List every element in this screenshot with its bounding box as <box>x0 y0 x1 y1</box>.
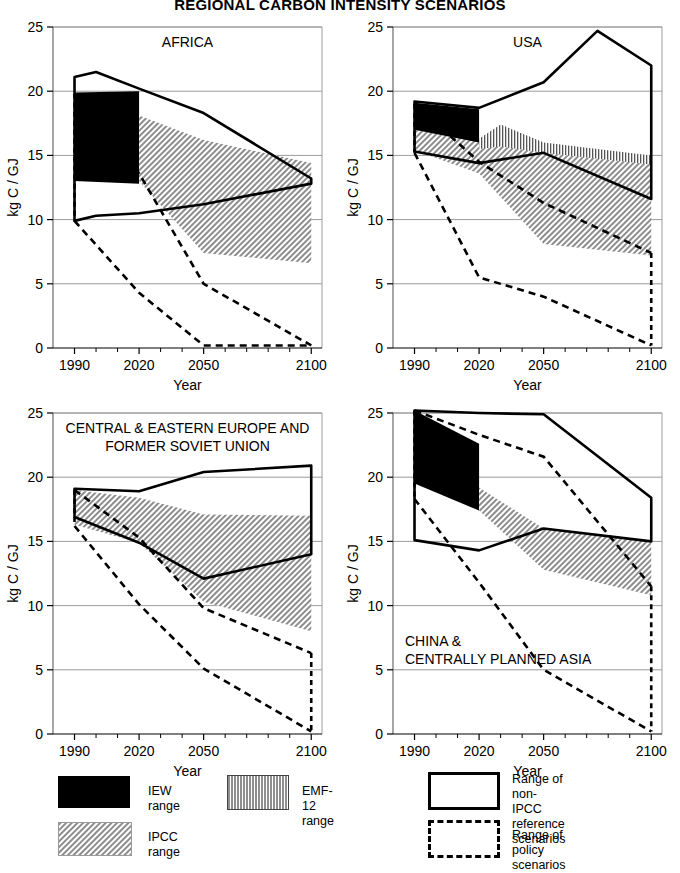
y-tick-label: 5 <box>35 276 43 292</box>
x-tick-label: 2050 <box>188 743 219 759</box>
y-tick-label: 15 <box>367 533 383 549</box>
panel-title: USA <box>513 34 542 50</box>
y-tick-label: 25 <box>27 405 43 421</box>
band-ipcc-range <box>75 490 312 631</box>
x-tick-label: 2020 <box>464 743 495 759</box>
y-tick-label: 0 <box>35 340 43 356</box>
y-tick-label: 15 <box>27 533 43 549</box>
legend-label-iew: IEW range <box>148 784 180 814</box>
y-axis-label: kg C / GJ <box>345 158 361 216</box>
chart-panel-africa: 05101520251990202020502100Yearkg C / GJA… <box>0 14 340 400</box>
y-tick-label: 10 <box>367 598 383 614</box>
legend-label-ipcc: IPCC range <box>148 830 180 860</box>
y-tick-label: 5 <box>35 662 43 678</box>
y-axis-label: kg C / GJ <box>5 158 21 216</box>
x-tick-label: 2020 <box>124 743 155 759</box>
chart-panel-china-cpa: 05101520251990202020502100Yearkg C / GJC… <box>340 400 680 786</box>
chart-panel-cee-fsu: 05101520251990202020502100Yearkg C / GJC… <box>0 400 340 786</box>
y-tick-label: 5 <box>375 276 383 292</box>
y-axis-label: kg C / GJ <box>5 544 21 602</box>
y-tick-label: 25 <box>27 19 43 35</box>
x-tick-label: 2100 <box>296 743 327 759</box>
panel-title: AFRICA <box>162 34 214 50</box>
x-tick-label: 2050 <box>528 743 559 759</box>
x-tick-label: 1990 <box>59 743 90 759</box>
panel-title: CENTRALLY PLANNED ASIA <box>405 651 592 667</box>
x-tick-label: 2020 <box>464 357 495 373</box>
legend-swatch-non-ipcc-reference <box>428 772 500 810</box>
figure-title: REGIONAL CARBON INTENSITY SCENARIOS <box>0 0 680 13</box>
legend: IEW range EMF-12 range IPCC range Range … <box>0 772 680 868</box>
panel-title: CHINA & <box>405 633 462 649</box>
y-tick-label: 15 <box>27 147 43 163</box>
y-tick-label: 20 <box>27 469 43 485</box>
y-tick-label: 0 <box>35 726 43 742</box>
y-tick-label: 10 <box>27 598 43 614</box>
legend-swatch-ipcc <box>58 822 132 856</box>
y-tick-label: 25 <box>367 19 383 35</box>
x-tick-label: 2050 <box>188 357 219 373</box>
legend-swatch-emf12 <box>227 775 289 810</box>
panel-title: FORMER SOVIET UNION <box>105 438 270 454</box>
x-axis-label: Year <box>173 377 202 393</box>
legend-swatch-iew <box>58 776 130 808</box>
y-tick-label: 0 <box>375 340 383 356</box>
y-tick-label: 0 <box>375 726 383 742</box>
x-axis-label: Year <box>513 377 542 393</box>
y-tick-label: 10 <box>367 212 383 228</box>
series-fills <box>75 91 312 263</box>
x-tick-label: 2050 <box>528 357 559 373</box>
y-tick-label: 20 <box>27 83 43 99</box>
y-axis-label: kg C / GJ <box>345 544 361 602</box>
x-tick-label: 2100 <box>636 743 667 759</box>
x-tick-label: 1990 <box>59 357 90 373</box>
legend-swatch-policy <box>428 820 500 858</box>
series-fills <box>75 490 312 631</box>
y-tick-label: 5 <box>375 662 383 678</box>
y-tick-label: 15 <box>367 147 383 163</box>
y-tick-label: 20 <box>367 469 383 485</box>
chart-panel-usa: 05101520251990202020502100Yearkg C / GJU… <box>340 14 680 400</box>
y-tick-label: 25 <box>367 405 383 421</box>
x-tick-label: 1990 <box>399 743 430 759</box>
band-iew-range <box>415 410 480 510</box>
x-tick-label: 2020 <box>124 357 155 373</box>
panel-title: CENTRAL & EASTERN EUROPE AND <box>66 420 310 436</box>
series-fills <box>415 410 652 595</box>
x-tick-label: 2100 <box>636 357 667 373</box>
legend-label-policy: Range of policy scenarios <box>512 828 566 873</box>
x-tick-label: 2100 <box>296 357 327 373</box>
y-tick-label: 10 <box>27 212 43 228</box>
legend-label-emf12: EMF-12 range <box>302 784 334 829</box>
x-tick-label: 1990 <box>399 357 430 373</box>
y-tick-label: 20 <box>367 83 383 99</box>
series-fills <box>415 103 652 256</box>
